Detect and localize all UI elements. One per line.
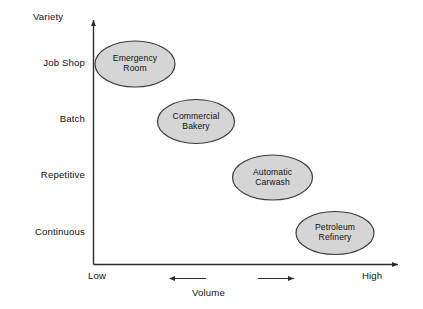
data-point-ellipse-petroleum-refinery[interactable]: [296, 212, 374, 255]
y-axis-tick-job-shop: Job Shop: [0, 57, 85, 68]
x-axis-tick-high: High: [362, 270, 382, 281]
y-axis-tick-batch: Batch: [0, 113, 85, 124]
y-axis-tick-repetitive: Repetitive: [0, 169, 85, 180]
data-point-ellipse-commercial-bakery[interactable]: [158, 100, 235, 144]
product-process-matrix-chart: Emergency Room Commercial Bakery Automat…: [0, 0, 423, 309]
data-point-ellipse-emergency-room[interactable]: [95, 41, 175, 87]
y-axis-title: Variety: [33, 11, 63, 22]
data-point-ellipse-automatic-carwash[interactable]: [233, 155, 313, 200]
x-axis-tick-low: Low: [88, 270, 106, 281]
chart-canvas: [0, 0, 423, 309]
x-axis-title: Volume: [192, 287, 225, 298]
y-axis-tick-continuous: Continuous: [0, 226, 85, 237]
